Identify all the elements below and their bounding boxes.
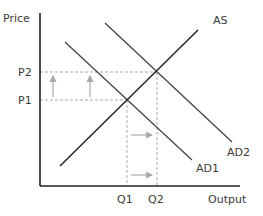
price-rise-arrows (53, 76, 90, 97)
p1-label: P1 (18, 94, 32, 107)
ad2-curve (105, 23, 232, 142)
q2-label: Q2 (148, 193, 164, 206)
as-ad-diagram: Price Output P2 P1 Q1 Q2 AS AD1 AD2 (0, 0, 263, 216)
as-label: AS (213, 14, 228, 27)
x-axis-label: Output (208, 193, 247, 206)
output-rise-arrows (131, 135, 152, 175)
q1-label: Q1 (117, 193, 133, 206)
y-axis-label: Price (3, 12, 30, 25)
p2-label: P2 (18, 66, 32, 79)
ad2-label: AD2 (227, 146, 250, 159)
ad1-label: AD1 (196, 162, 219, 175)
